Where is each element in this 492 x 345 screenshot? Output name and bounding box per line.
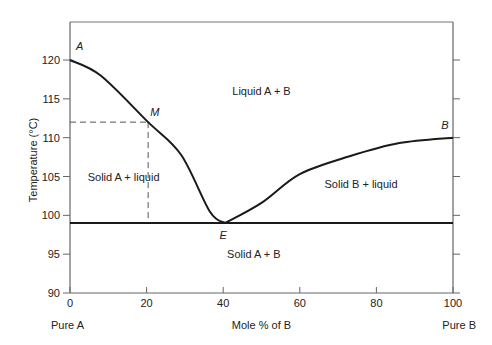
- y-tick-label: 95: [48, 248, 60, 260]
- point-labels: AMEB: [75, 40, 449, 241]
- x-tick-label: 80: [370, 297, 382, 309]
- point-label-M: M: [150, 106, 160, 118]
- x-axis-label: Mole % of B: [232, 319, 291, 331]
- x-end-label-right: Pure B: [442, 319, 476, 331]
- y-tick-label: 105: [42, 171, 60, 183]
- region-label: Solid A + liquid: [88, 171, 160, 183]
- y-tick-label: 90: [48, 287, 60, 299]
- x-end-label-left: Pure A: [51, 319, 85, 331]
- x-axis-ticks: 020406080100: [67, 287, 462, 309]
- region-label: Liquid A + B: [232, 85, 290, 97]
- y-axis-label: Temperature (°C): [27, 118, 39, 202]
- y-tick-label: 110: [42, 132, 60, 144]
- region-label: Solid B + liquid: [325, 178, 398, 190]
- region-labels: Liquid A + BSolid A + liquidSolid B + li…: [88, 85, 398, 260]
- point-label-A: A: [75, 40, 83, 52]
- phase-diagram-chart: 020406080100 9095100105110115120 AMEB Li…: [0, 0, 492, 345]
- region-label: Solid A + B: [227, 248, 281, 260]
- x-tick-label: 40: [217, 297, 229, 309]
- y-tick-label: 100: [42, 209, 60, 221]
- x-tick-label: 20: [140, 297, 152, 309]
- y-tick-label: 115: [42, 93, 60, 105]
- y-tick-label: 120: [42, 54, 60, 66]
- series-liquidus-A: [70, 60, 225, 223]
- point-label-B: B: [441, 119, 448, 131]
- point-label-E: E: [219, 229, 227, 241]
- x-tick-label: 60: [294, 297, 306, 309]
- x-tick-label: 0: [67, 297, 73, 309]
- x-tick-label: 100: [444, 297, 462, 309]
